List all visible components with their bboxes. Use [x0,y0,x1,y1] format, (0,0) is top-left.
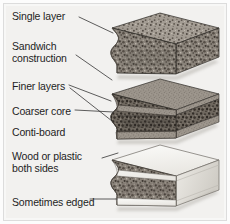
leader-coarser-core [75,110,113,112]
label-both-sides: both sides [12,162,58,174]
leader-wood-or-plastic [102,153,118,158]
leader-sandwich [76,55,112,80]
leader-single-layer [79,17,113,33]
label-single-layer: Single layer [12,10,65,22]
label-coarser-core: Coarser core [12,105,71,117]
label-wood-or-plastic: Wood or plastic [12,150,82,162]
label-sandwich: Sandwich [12,40,56,52]
leader-finer-layers-lower [70,88,112,121]
leader-finer-layers [69,85,111,101]
label-finer-layers: Finer layers [12,80,65,92]
label-conti-board: Conti-board [12,126,65,138]
board-types-figure: Single layer Sandwich construction Finer… [0,0,230,224]
label-construction: construction [12,52,67,64]
label-sometimes-edged: Sometimes edged [12,196,94,208]
